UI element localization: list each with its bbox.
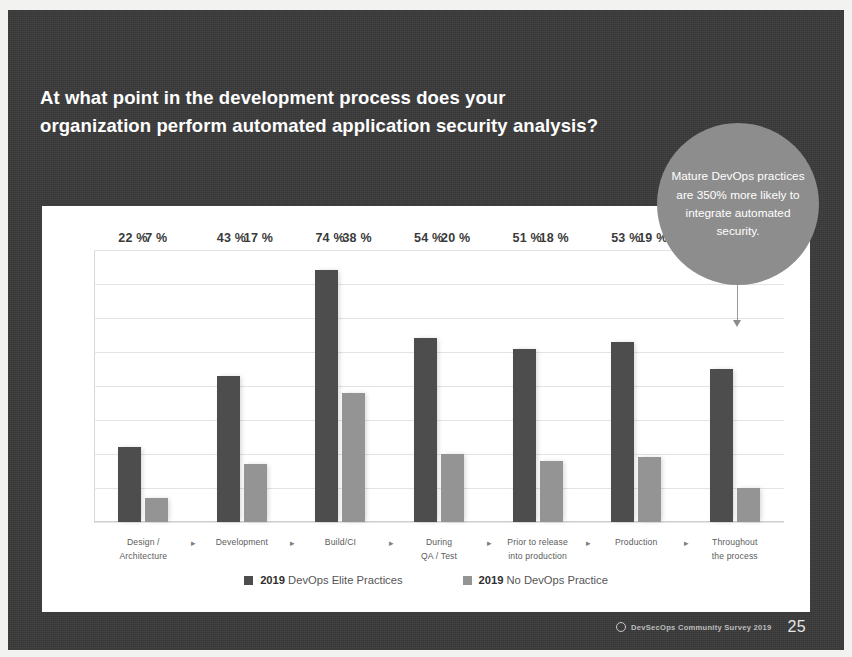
category-label: Build/CI ▸: [291, 536, 390, 564]
bar-group: 53 %19 %: [587, 250, 686, 522]
bar-elite[interactable]: 54 %: [414, 338, 437, 522]
legend-swatch-icon: [463, 576, 472, 585]
category-label: Production ▸: [587, 536, 686, 564]
category-label: DuringQA / Test▸: [390, 536, 489, 564]
presentation-slide: At what point in the development process…: [8, 10, 844, 650]
bar-value-label: 17 %: [244, 231, 273, 245]
category-label-line: [587, 550, 686, 564]
grid-line: [94, 522, 784, 523]
bar-value-label: 38 %: [342, 231, 371, 245]
category-label-line: Development: [193, 536, 292, 550]
bar-no-devops[interactable]: 38 %: [342, 393, 365, 522]
category-label-line: the process: [685, 550, 784, 564]
bar-value-label: 7 %: [145, 231, 167, 245]
bar-group: 54 %20 %: [390, 250, 489, 522]
bar-value-label: 22 %: [118, 231, 147, 245]
legend-year: 2019: [479, 574, 504, 586]
bar-no-devops[interactable]: 20 %: [441, 454, 464, 522]
category-label: Prior to releaseinto production▸: [488, 536, 587, 564]
legend-item[interactable]: 2019 DevOps Elite Practices: [244, 574, 402, 586]
bar-holder: 74 %: [315, 250, 338, 522]
bar-holder: 17 %: [244, 250, 267, 522]
bar-value-label: 43 %: [217, 231, 246, 245]
slide-canvas: At what point in the development process…: [0, 0, 852, 657]
bar-holder: 20 %: [441, 250, 464, 522]
bar-value-label: 53 %: [611, 231, 640, 245]
bar-elite[interactable]: 45 %: [710, 369, 733, 522]
category-label-line: Build/CI: [291, 536, 390, 550]
bar-no-devops[interactable]: 19 %: [638, 457, 661, 522]
legend-item[interactable]: 2019 No DevOps Practice: [463, 574, 608, 586]
legend-swatch-icon: [244, 576, 253, 585]
bar-value-label: 51 %: [513, 231, 542, 245]
bar-elite[interactable]: 22 %: [118, 447, 141, 522]
category-label-line: [291, 550, 390, 564]
page-number: 25: [787, 618, 806, 636]
category-label-line: QA / Test: [390, 550, 489, 564]
bar-holder: 22 %: [118, 250, 141, 522]
bar-group: 51 %18 %: [488, 250, 587, 522]
callout-arrow-icon: [733, 320, 741, 327]
bar-elite[interactable]: 51 %: [513, 349, 536, 522]
bar-holder: 53 %: [611, 250, 634, 522]
category-label-line: Throughout: [685, 536, 784, 550]
bar-elite[interactable]: 74 %: [315, 270, 338, 522]
bar-holder: 51 %: [513, 250, 536, 522]
bar-no-devops[interactable]: 17 %: [244, 464, 267, 522]
category-label-line: Design /: [94, 536, 193, 550]
bar-holder: 7 %: [145, 250, 168, 522]
ring-icon: [616, 622, 626, 632]
bar-no-devops[interactable]: 10 %: [737, 488, 760, 522]
category-label: Design /Architecture▸: [94, 536, 193, 564]
bar-group: 43 %17 %: [193, 250, 292, 522]
bar-group: 45 %10 %: [685, 250, 784, 522]
legend-year: 2019: [260, 574, 285, 586]
category-label-line: Prior to release: [488, 536, 587, 550]
bar-value-label: 54 %: [414, 231, 443, 245]
bar-value-label: 74 %: [315, 231, 344, 245]
bar-groups: 22 %7 %43 %17 %74 %38 %54 %20 %51 %18 %5…: [94, 250, 784, 522]
slide-footer: DevSecOps Community Survey 2019 25: [616, 618, 806, 636]
bar-holder: 38 %: [342, 250, 365, 522]
bar-holder: 10 %: [737, 250, 760, 522]
bar-holder: 43 %: [217, 250, 240, 522]
category-label: Development ▸: [193, 536, 292, 564]
category-label-line: into production: [488, 550, 587, 564]
footer-brand: DevSecOps Community Survey 2019: [616, 622, 771, 632]
category-axis-labels: Design /Architecture▸Development ▸Build/…: [94, 536, 784, 564]
bar-holder: 54 %: [414, 250, 437, 522]
category-label-line: Production: [587, 536, 686, 550]
page-title-line-2: organization perform automated applicati…: [40, 112, 680, 140]
page-title: At what point in the development process…: [40, 84, 680, 140]
bar-elite[interactable]: 43 %: [217, 376, 240, 522]
callout-text: Mature DevOps practices are 350% more li…: [659, 167, 817, 241]
bar-value-label: 18 %: [540, 231, 569, 245]
bar-group: 74 %38 %: [291, 250, 390, 522]
bar-group: 22 %7 %: [94, 250, 193, 522]
category-label-line: [193, 550, 292, 564]
callout-badge: Mature DevOps practices are 350% more li…: [657, 123, 819, 285]
plot-area: 22 %7 %43 %17 %74 %38 %54 %20 %51 %18 %5…: [94, 250, 784, 522]
legend-label: 2019 DevOps Elite Practices: [260, 574, 402, 586]
category-label-line: During: [390, 536, 489, 550]
category-label-line: Architecture: [94, 550, 193, 564]
footer-brand-label: DevSecOps Community Survey 2019: [631, 623, 771, 632]
page-title-line-1: At what point in the development process…: [40, 84, 680, 112]
bar-holder: 18 %: [540, 250, 563, 522]
legend-label: 2019 No DevOps Practice: [479, 574, 608, 586]
category-label: Throughoutthe process: [685, 536, 784, 564]
bar-holder: 19 %: [638, 250, 661, 522]
bar-elite[interactable]: 53 %: [611, 342, 634, 522]
chart-legend: 2019 DevOps Elite Practices2019 No DevOp…: [42, 574, 810, 586]
bar-no-devops[interactable]: 18 %: [540, 461, 563, 522]
bar-holder: 45 %: [710, 250, 733, 522]
bar-no-devops[interactable]: 7 %: [145, 498, 168, 522]
bar-value-label: 20 %: [441, 231, 470, 245]
